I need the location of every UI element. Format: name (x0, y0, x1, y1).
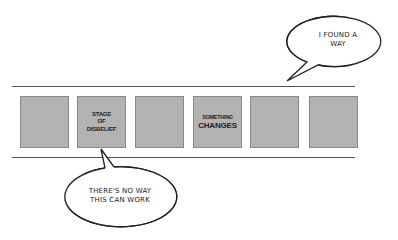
bubble-line: THERE'S NO WAY (68, 187, 172, 196)
top-bubble-text: I FOUND A WAY (298, 31, 378, 49)
bubble-line: I FOUND A (298, 31, 378, 40)
bottom-bubble-text: THERE'S NO WAY THIS CAN WORK (68, 187, 172, 205)
bubble-line: WAY (298, 40, 378, 49)
bubble-line: THIS CAN WORK (68, 196, 172, 205)
